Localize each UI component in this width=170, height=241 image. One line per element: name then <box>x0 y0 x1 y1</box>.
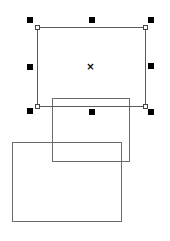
corner-node-top-right <box>143 25 148 30</box>
resize-handle-middle-left[interactable] <box>27 64 33 70</box>
corner-node-bottom-left <box>35 104 40 109</box>
rotation-center-icon[interactable]: × <box>86 62 95 71</box>
resize-handle-top-middle[interactable] <box>89 17 95 23</box>
rectangle-shape-middle[interactable] <box>52 98 130 162</box>
resize-handle-bottom-middle[interactable] <box>89 109 95 115</box>
resize-handle-top-left[interactable] <box>27 17 33 23</box>
resize-handle-bottom-left[interactable] <box>27 108 33 114</box>
drawing-canvas[interactable]: × <box>0 0 170 241</box>
corner-node-top-left <box>35 25 40 30</box>
resize-handle-middle-right[interactable] <box>148 63 154 69</box>
resize-handle-top-right[interactable] <box>148 17 154 23</box>
resize-handle-bottom-right[interactable] <box>148 109 154 115</box>
